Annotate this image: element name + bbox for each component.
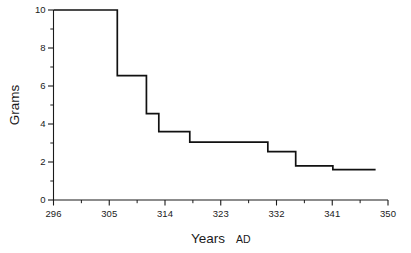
y-axis-title: Grams	[7, 85, 22, 126]
x-tick-label: 323	[213, 208, 229, 219]
x-tick-label: 350	[380, 208, 396, 219]
plot-line-group	[54, 10, 376, 170]
y-tick-label: 10	[35, 4, 46, 15]
axes-group	[54, 10, 389, 200]
x-tick-label: 332	[269, 208, 285, 219]
ticks-group	[48, 10, 388, 206]
step-line-series	[54, 10, 376, 170]
x-tick-label: 296	[46, 208, 62, 219]
chart-canvas: 0246810296305314323332341350 Years AD Gr…	[0, 0, 411, 253]
chart-container: 0246810296305314323332341350 Years AD Gr…	[0, 0, 411, 253]
y-tick-label: 2	[40, 156, 45, 167]
x-tick-label: 305	[101, 208, 117, 219]
x-tick-label: 314	[157, 208, 173, 219]
y-tick-label: 6	[40, 80, 45, 91]
tick-labels-group: 0246810296305314323332341350	[35, 4, 396, 219]
x-tick-label: 341	[324, 208, 340, 219]
y-tick-label: 0	[40, 194, 45, 205]
y-tick-label: 4	[40, 118, 45, 129]
x-axis-title-suffix: AD	[236, 233, 251, 245]
y-tick-label: 8	[40, 42, 45, 53]
x-axis-title: Years	[191, 231, 225, 246]
